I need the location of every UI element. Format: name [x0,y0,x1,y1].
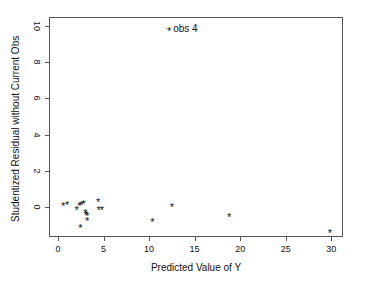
x-axis-tick-label: 15 [190,244,200,254]
y-axis-tick-label: 6 [32,96,42,101]
x-axis-tick-label: 5 [101,244,106,254]
y-axis-tick [45,171,49,172]
y-axis-title: Studentized Residual without Current Obs [10,19,21,239]
star-marker-icon: * [167,25,171,36]
x-axis-tick-label: 0 [56,244,61,254]
star-marker-icon: * [328,228,332,239]
x-axis-tick-label: 25 [281,244,291,254]
x-axis-title: Predicted Value of Y [151,262,241,273]
y-axis-tick-label: 2 [32,168,42,173]
x-axis-tick [104,237,105,241]
y-axis-tick-label: 0 [32,205,42,210]
y-axis-tick [45,207,49,208]
x-axis-tick-label: 10 [144,244,154,254]
star-marker-icon: * [65,200,69,211]
star-marker-icon: * [227,212,231,223]
star-marker-icon: * [100,204,104,215]
plot-frame [49,17,343,237]
y-axis-tick [45,98,49,99]
x-axis-tick-label: 20 [235,244,245,254]
y-axis-tick-label: 8 [32,60,42,65]
star-marker-icon: * [150,216,154,227]
y-axis-tick [45,62,49,63]
star-marker-icon: * [85,215,89,226]
scatter-plot-figure: Predicted Value of Y Studentized Residua… [0,0,368,283]
x-axis-tick [149,237,150,241]
y-axis-tick-label: 10 [32,21,42,31]
y-axis-tick-label: 4 [32,132,42,137]
y-axis-tick [45,135,49,136]
star-marker-icon: * [170,202,174,213]
x-axis-tick [58,237,59,241]
star-marker-icon: * [78,222,82,233]
point-annotation-label: obs 4 [173,23,197,34]
x-axis-tick [195,237,196,241]
x-axis-tick [240,237,241,241]
y-axis-tick [45,26,49,27]
x-axis-tick [286,237,287,241]
x-axis-tick-label: 30 [326,244,336,254]
